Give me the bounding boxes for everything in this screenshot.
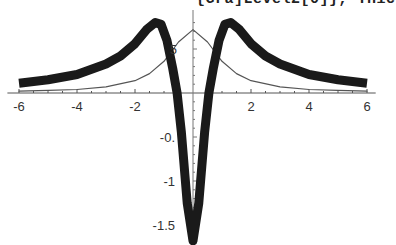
x-tick-label: -6 [13, 99, 25, 114]
x-tick-label: -4 [71, 99, 83, 114]
y-tick-label: -1 [163, 174, 175, 189]
y-tick-label: -1.5 [153, 218, 175, 233]
y-tick-label: 5 [170, 42, 177, 57]
x-tick-label: 4 [305, 99, 312, 114]
y-tick-label: -0. [160, 130, 175, 145]
x-tick-label: 2 [247, 99, 254, 114]
x-tick-label: -2 [129, 99, 141, 114]
x-tick-label: 6 [363, 99, 370, 114]
plot-area: -6-4-22465-0.-1-1.5 [0, 0, 396, 245]
